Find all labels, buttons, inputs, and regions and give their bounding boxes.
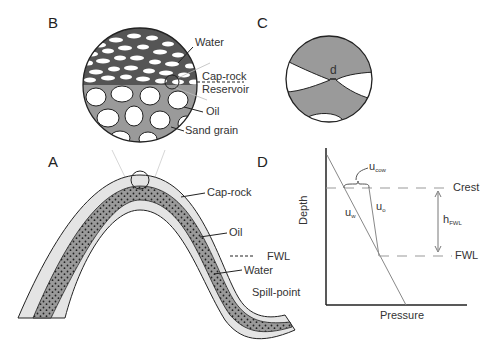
label-uw: uw [345,206,355,219]
label-hfwl: hFWL [443,213,462,226]
label-caprock-b: Cap-rock [202,70,247,82]
label-ucow: ucow [369,160,386,173]
pressure-depth-chart [326,148,467,305]
pore-throat-circle [285,35,375,130]
label-throat-d: d [330,63,337,77]
label-fwl-d: FWL [455,249,478,261]
anticline-cross-section [18,150,295,339]
panel-letter-b: B [48,14,58,31]
label-crest: Crest [453,181,479,193]
x-axis-label: Pressure [380,309,424,321]
y-axis-label: Depth [297,196,309,225]
panel-letter-a: A [48,153,58,170]
label-reservoir-b: Reservoir [202,83,249,95]
label-spill-point: Spill-point [252,286,300,298]
panel-letter-d: D [257,153,268,170]
panel-letter-c: C [257,14,268,31]
label-fwl-a: FWL [267,250,290,262]
label-water-b: Water [195,36,224,48]
label-uo: uo [376,200,385,213]
label-oil-b: Oil [206,105,219,117]
figure-canvas [0,0,495,357]
label-sand-grain: Sand grain [185,124,238,136]
label-oil-a: Oil [229,226,242,238]
label-caprock-a: Cap-rock [207,186,252,198]
label-water-a: Water [244,264,273,276]
